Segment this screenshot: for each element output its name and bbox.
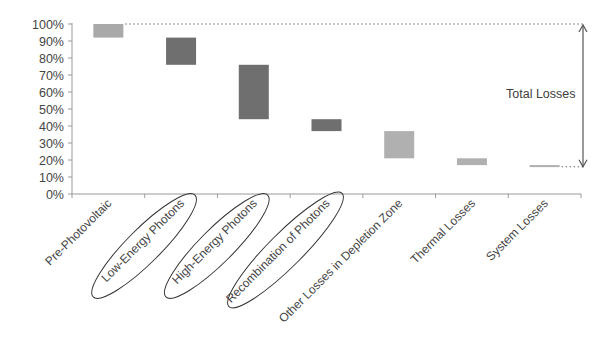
- y-tick-label: 70%: [39, 69, 64, 83]
- y-tick-label: 60%: [39, 86, 64, 100]
- y-axis: 0%10%20%30%40%50%60%70%80%90%100%: [32, 18, 72, 202]
- y-tick-label: 10%: [39, 171, 64, 185]
- category-label: Pre-Photovoltaic: [42, 196, 114, 268]
- bar-recombination-of-photons: [312, 119, 342, 131]
- y-tick-label: 80%: [39, 52, 64, 66]
- category-label: Other Losses in Depletion Zone: [276, 196, 405, 325]
- category-labels: Pre-PhotovoltaicLow-Energy PhotonsHigh-E…: [42, 196, 550, 325]
- bar-pre-photovoltaic: [93, 24, 123, 38]
- y-tick-label: 40%: [39, 120, 64, 134]
- category-label: Thermal Losses: [408, 196, 478, 266]
- bar-system-losses: [530, 165, 560, 167]
- bar-other-losses-in-depletion-zone: [384, 131, 414, 158]
- bar-thermal-losses: [457, 158, 487, 165]
- y-tick-label: 90%: [39, 35, 64, 49]
- y-tick-label: 30%: [39, 137, 64, 151]
- y-tick-label: 50%: [39, 103, 64, 117]
- bar-low-energy-photons: [166, 38, 196, 65]
- y-tick-label: 0%: [46, 188, 64, 202]
- waterfall-chart: 0%10%20%30%40%50%60%70%80%90%100% Pre-Ph…: [0, 0, 615, 351]
- category-label: System Losses: [483, 196, 550, 263]
- total-losses-annotation: Total Losses: [506, 25, 587, 167]
- y-tick-label: 100%: [32, 18, 64, 32]
- y-tick-label: 20%: [39, 154, 64, 168]
- bar-high-energy-photons: [239, 65, 269, 119]
- total-losses-label: Total Losses: [506, 87, 575, 101]
